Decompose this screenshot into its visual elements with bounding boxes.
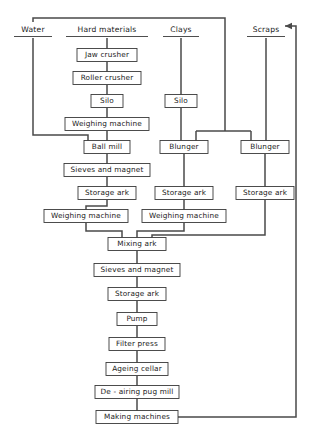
node-sieves-and-magnet-mix-label: Sieves and magnet <box>101 265 174 274</box>
node-ball-mill[interactable]: Ball mill <box>84 141 130 154</box>
node-jaw-crusher[interactable]: Jaw crusher <box>77 49 137 62</box>
node-roller-crusher-label: Roller crusher <box>81 73 134 82</box>
node-ageing-cellar-label: Ageing cellar <box>112 364 162 373</box>
node-ball-mill-label: Ball mill <box>92 142 122 151</box>
node-pump-label: Pump <box>126 314 147 323</box>
node-weighing-machine-mid-label: Weighing machine <box>149 211 219 220</box>
node-sieves-and-magnet-mix[interactable]: Sieves and magnet <box>94 264 180 277</box>
edge-weighing-left-to-mixing <box>86 223 122 238</box>
node-storage-ark-clays-label: Storage ark <box>162 188 207 197</box>
node-storage-ark-mix-label: Storage ark <box>115 289 160 298</box>
node-blunger-left[interactable]: Blunger <box>160 141 208 154</box>
node-storage-ark-clays[interactable]: Storage ark <box>155 187 213 200</box>
node-silo-clays-label: Silo <box>174 96 188 105</box>
node-storage-ark-scraps-label: Storage ark <box>243 188 288 197</box>
node-making-machines[interactable]: Making machines <box>96 411 178 424</box>
node-filter-press-label: Filter press <box>116 339 158 348</box>
node-silo-hard-label: Silo <box>100 96 114 105</box>
heading-hard-materials: Hard materials <box>66 25 148 36</box>
process-flow-diagram: Water Hard materials Clays Scraps Jaw cr… <box>0 0 314 440</box>
node-mixing-ark-label: Mixing ark <box>117 239 157 248</box>
node-weighing-machine-left[interactable]: Weighing machine <box>44 210 128 223</box>
node-blunger-right[interactable]: Blunger <box>241 141 289 154</box>
node-storage-ark-mix[interactable]: Storage ark <box>108 288 166 301</box>
heading-clays: Clays <box>163 25 199 36</box>
process-nodes: Jaw crusher Roller crusher Silo Weighing… <box>44 49 294 424</box>
node-weighing-machine-hard[interactable]: Weighing machine <box>65 118 149 131</box>
column-headings: Water Hard materials Clays Scraps <box>14 25 285 36</box>
heading-clays-label: Clays <box>170 25 192 34</box>
node-weighing-machine-hard-label: Weighing machine <box>72 119 142 128</box>
node-ageing-cellar[interactable]: Ageing cellar <box>106 363 168 376</box>
heading-hard-materials-label: Hard materials <box>77 25 136 34</box>
heading-water-label: Water <box>21 25 45 34</box>
node-blunger-right-label: Blunger <box>250 142 279 151</box>
node-jaw-crusher-label: Jaw crusher <box>84 50 129 59</box>
node-weighing-machine-left-label: Weighing machine <box>51 211 121 220</box>
node-mixing-ark[interactable]: Mixing ark <box>108 238 166 251</box>
heading-scraps: Scraps <box>247 25 285 36</box>
node-sieves-and-magnet-ball[interactable]: Sieves and magnet <box>64 164 150 177</box>
node-blunger-left-label: Blunger <box>169 142 198 151</box>
edge-storage-to-weighing-left <box>86 200 107 210</box>
node-storage-ark-ball-label: Storage ark <box>85 188 130 197</box>
heading-scraps-label: Scraps <box>253 25 280 34</box>
node-sieves-and-magnet-ball-label: Sieves and magnet <box>71 165 144 174</box>
node-silo-clays[interactable]: Silo <box>165 95 197 108</box>
node-roller-crusher[interactable]: Roller crusher <box>73 72 141 85</box>
node-de-airing-pug-mill-label: De - airing pug mill <box>101 387 174 396</box>
node-filter-press[interactable]: Filter press <box>109 338 165 351</box>
node-making-machines-label: Making machines <box>104 412 170 421</box>
heading-water: Water <box>14 25 52 36</box>
arrow-head-scraps <box>285 23 292 30</box>
node-weighing-machine-mid[interactable]: Weighing machine <box>142 210 226 223</box>
node-storage-ark-scraps[interactable]: Storage ark <box>236 187 294 200</box>
node-pump[interactable]: Pump <box>117 313 157 326</box>
node-de-airing-pug-mill[interactable]: De - airing pug mill <box>95 386 179 399</box>
node-storage-ark-ball[interactable]: Storage ark <box>78 187 136 200</box>
node-silo-hard[interactable]: Silo <box>91 95 123 108</box>
